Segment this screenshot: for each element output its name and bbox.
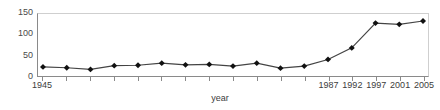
x-axis-tick-label: 1987 (318, 80, 338, 90)
data-point-marker (111, 63, 117, 69)
y-axis-tick-label: 150 (3, 8, 33, 17)
data-point-marker (420, 18, 426, 24)
x-axis-tick-label: 1992 (342, 80, 362, 90)
x-axis-tick-label: 1945 (32, 80, 52, 90)
y-axis-tick-label: 50 (3, 51, 33, 60)
x-axis-tick-label: 1997 (366, 80, 386, 90)
x-axis-tick-label: 2001 (390, 80, 410, 90)
series-line (38, 14, 428, 76)
data-point-marker (230, 63, 236, 69)
data-point-marker (254, 60, 260, 66)
data-point-marker (87, 66, 93, 72)
y-axis-tick-label: 100 (3, 29, 33, 38)
data-point-marker (40, 64, 46, 70)
series-polyline (43, 21, 423, 69)
data-point-marker (159, 60, 165, 66)
data-point-marker (301, 63, 307, 69)
x-axis-labels: 194519871992199720012005 (0, 80, 440, 92)
data-point-marker (64, 65, 70, 71)
data-point-marker (183, 62, 189, 68)
data-point-marker (396, 21, 402, 27)
line-chart: 050100150 194519871992199720012005 year (0, 0, 440, 110)
plot-area (37, 13, 429, 77)
data-point-marker (325, 57, 331, 63)
data-point-marker (135, 62, 141, 68)
data-point-marker (278, 65, 284, 71)
x-axis-title: year (0, 93, 440, 103)
x-axis-tick-label: 2005 (414, 80, 434, 90)
data-point-marker (206, 62, 212, 68)
